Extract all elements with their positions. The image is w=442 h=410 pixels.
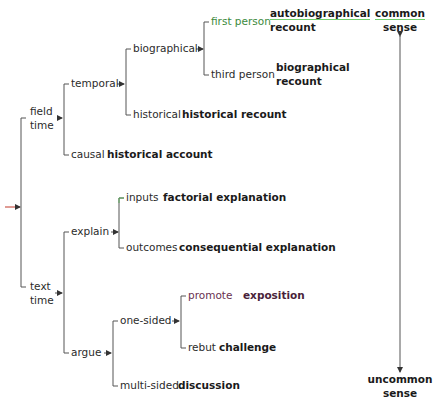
- genre-autobiographical-line2: recount: [270, 21, 370, 35]
- node-field-time: field time: [30, 104, 54, 132]
- genre-autobiographical-line1: autobiographical: [270, 7, 370, 20]
- genre-biographical-line1: biographical: [276, 61, 350, 75]
- genre-historical-recount: historical recount: [182, 108, 287, 122]
- scale-bottom-line2: sense: [360, 387, 440, 401]
- node-inputs: inputs: [126, 191, 158, 204]
- bracket-one-sided: [181, 296, 186, 348]
- bracket-argue: [113, 321, 118, 386]
- scale-bottom-line1: uncommon: [360, 373, 440, 387]
- genre-biographical-line2: recount: [276, 75, 350, 89]
- bracket-explain: [119, 198, 124, 248]
- node-text-time-line2: time: [30, 293, 54, 307]
- node-argue: argue: [71, 346, 101, 359]
- node-first-person: first person: [211, 15, 271, 28]
- bracket-temporal: [126, 49, 131, 115]
- node-temporal: temporal: [71, 77, 119, 90]
- node-promote: promote: [188, 289, 232, 302]
- scale-top-line2: sense: [360, 21, 440, 35]
- node-one-sided: one-sided: [120, 314, 172, 327]
- node-explain: explain: [71, 225, 109, 238]
- scale-top-line1: common: [375, 7, 425, 20]
- node-biographical: biographical: [133, 42, 198, 55]
- genre-biographical-recount: biographical recount: [276, 61, 350, 88]
- node-field-time-line2: time: [30, 118, 54, 132]
- node-outcomes: outcomes: [126, 241, 178, 254]
- node-text-time: text time: [30, 279, 54, 307]
- node-multi-sided: multi-sided: [120, 379, 179, 392]
- node-rebut: rebut: [188, 341, 216, 354]
- bracket-text-time: [64, 232, 69, 353]
- genre-consequential-explanation: consequential explanation: [179, 241, 336, 255]
- bracket-explain-top-accent: [119, 198, 124, 203]
- genre-historical-account: historical account: [107, 148, 213, 162]
- genre-exposition: exposition: [243, 289, 305, 303]
- genre-autobiographical-recount: autobiographical recount: [270, 7, 370, 34]
- node-text-time-line1: text: [30, 279, 54, 293]
- node-field-time-line1: field: [30, 104, 54, 118]
- bracket-field-time: [64, 84, 69, 155]
- node-historical: historical: [133, 108, 181, 121]
- genre-challenge: challenge: [219, 341, 276, 355]
- genre-discussion: discussion: [178, 379, 240, 393]
- bracket-root: [21, 118, 26, 287]
- scale-top-label: common sense: [360, 7, 440, 34]
- bracket-biographical: [204, 22, 209, 75]
- node-causal: causal: [71, 148, 105, 161]
- node-third-person: third person: [211, 68, 275, 81]
- scale-bottom-label: uncommon sense: [360, 373, 440, 400]
- genre-factorial-explanation: factorial explanation: [163, 191, 286, 205]
